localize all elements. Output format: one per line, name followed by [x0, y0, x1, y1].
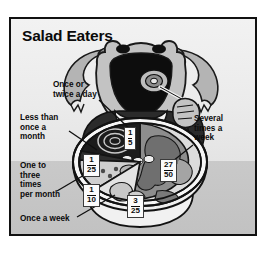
callout-once-a-week: Once a week — [20, 214, 70, 224]
callout-once-or-twice-a-day: Once or twice a day — [53, 80, 97, 99]
fraction-numerator: 1 — [87, 186, 96, 195]
callout-one-to-three-times-per-month: One to three times per month — [20, 161, 60, 199]
fraction-denominator: 10 — [87, 195, 96, 205]
callout-several-times-a-week: Several times a week — [194, 114, 223, 143]
fraction-numerator: 1 — [87, 156, 96, 165]
fraction-label-one-tenth: 1 10 — [83, 184, 100, 207]
fraction-label-one-fifth: 1 5 — [124, 127, 136, 150]
fraction-denominator: 50 — [164, 170, 173, 180]
fraction-numerator: 27 — [164, 161, 173, 170]
fraction-numerator: 3 — [131, 197, 140, 206]
page-title: Salad Eaters — [22, 27, 113, 45]
fraction-label-one-twentyfifth: 1 25 — [83, 154, 100, 177]
fraction-label-three-twentyfifths: 3 25 — [127, 195, 144, 218]
infographic-canvas: Salad Eaters Once or twice a day Less th… — [0, 0, 267, 259]
fraction-denominator: 25 — [131, 206, 140, 216]
chart-frame: Salad Eaters Once or twice a day Less th… — [9, 17, 257, 236]
fraction-label-twentyseven-fiftieths: 27 50 — [160, 159, 177, 182]
fraction-numerator: 1 — [128, 129, 132, 138]
fraction-denominator: 5 — [128, 138, 132, 148]
fraction-denominator: 25 — [87, 165, 96, 175]
callout-less-than-once-a-month: Less than once a month — [20, 113, 58, 142]
